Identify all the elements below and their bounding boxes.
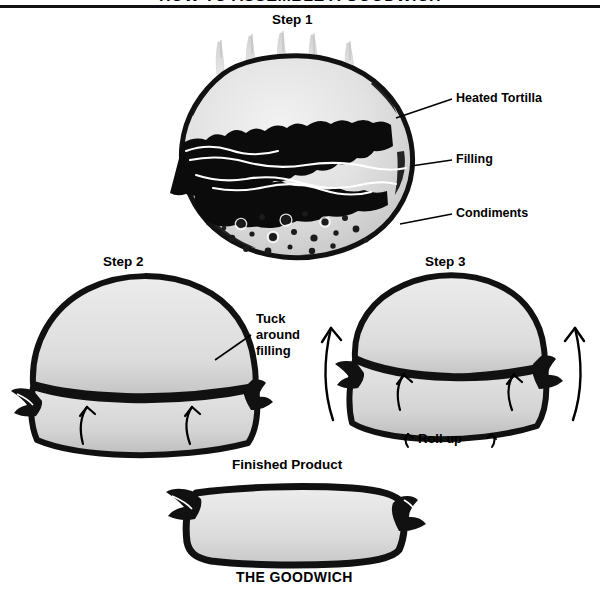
- step-2-dome: [33, 276, 256, 396]
- step-1-illustration: [170, 31, 452, 258]
- step-3-label: Step 3: [425, 254, 466, 269]
- step-2-roll-band: [31, 387, 257, 455]
- tuck-instruction-line-2: around: [256, 328, 300, 343]
- step-3-right-tab: [532, 355, 563, 389]
- finished-right-tab: [392, 496, 426, 531]
- diagram-page: HOW TO ASSEMBLE A GOODWICH: [0, 0, 600, 590]
- step-2-illustration: [11, 276, 273, 455]
- step-1-label: Step 1: [272, 12, 313, 27]
- roll-up-instruction: Roll up: [418, 432, 462, 447]
- finished-product-illustration: [166, 487, 426, 565]
- step-3-dome: [355, 275, 545, 376]
- tuck-instruction-line-3: filling: [256, 344, 291, 359]
- finished-product-caption: Finished Product: [232, 457, 342, 472]
- step-2-label: Step 2: [103, 254, 144, 269]
- callout-condiments: Condiments: [456, 206, 528, 220]
- finished-product-shape: [186, 487, 404, 565]
- callout-heated-tortilla: Heated Tortilla: [456, 91, 542, 105]
- step-3-illustration: [322, 275, 584, 447]
- callout-filling: Filling: [456, 152, 493, 166]
- tuck-instruction-line-1: Tuck: [256, 312, 285, 327]
- brand-name: THE GOODWICH: [236, 570, 353, 586]
- diagram-artwork: [0, 0, 600, 590]
